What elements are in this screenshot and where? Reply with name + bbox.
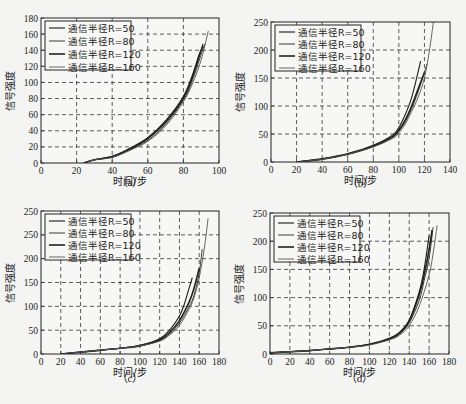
y-tick-label: 200 xyxy=(24,254,39,264)
x-tick-label: 20 xyxy=(56,357,66,367)
y-tick-label: 250 xyxy=(254,18,269,28)
x-tick-label: 180 xyxy=(212,357,227,367)
x-tick-label: 180 xyxy=(442,357,457,367)
x-tick-label: 60 xyxy=(343,165,353,175)
x-tick-label: 40 xyxy=(107,166,117,176)
legend-label: 通信半径R=160 xyxy=(298,63,371,74)
legend-label: 通信半径R=80 xyxy=(298,39,365,50)
legend-label: 通信半径R=120 xyxy=(297,242,370,253)
x-tick-label: 80 xyxy=(179,166,189,176)
y-tick-label: 100 xyxy=(253,293,268,303)
y-axis-label: 信号强度 xyxy=(4,263,16,303)
y-tick-label: 160 xyxy=(24,30,39,40)
legend: 通信半径R=50通信半径R=80通信半径R=120通信半径R=160 xyxy=(274,216,370,265)
x-tick-label: 160 xyxy=(192,357,207,367)
legend-label: 通信半径R=160 xyxy=(68,62,141,73)
y-tick-label: 0 xyxy=(33,159,38,169)
legend-label: 通信半径R=80 xyxy=(68,228,135,239)
legend-label: 通信半径R=50 xyxy=(298,27,365,38)
y-tick-label: 100 xyxy=(24,78,39,88)
x-tick-label: 40 xyxy=(305,357,315,367)
legend-label: 通信半径R=120 xyxy=(298,51,371,62)
x-tick-label: 100 xyxy=(212,166,227,176)
y-tick-label: 120 xyxy=(24,62,39,72)
subfigure-caption: （c） xyxy=(117,372,144,384)
y-tick-label: 150 xyxy=(253,265,268,275)
y-axis-label: 信号强度 xyxy=(4,71,16,111)
y-tick-label: 0 xyxy=(263,158,268,168)
legend: 通信半径R=50通信半径R=80通信半径R=120通信半径R=160 xyxy=(45,214,141,263)
x-tick-label: 0 xyxy=(39,357,44,367)
chart-a: 020406080100020406080100120140160180通信半径… xyxy=(4,14,226,189)
legend-label: 通信半径R=120 xyxy=(68,240,141,251)
y-tick-label: 100 xyxy=(24,302,39,312)
x-tick-label: 160 xyxy=(422,357,437,367)
x-tick-label: 40 xyxy=(76,357,86,367)
y-tick-label: 140 xyxy=(24,46,39,56)
y-tick-label: 200 xyxy=(254,46,269,56)
y-tick-label: 60 xyxy=(29,110,39,120)
x-tick-label: 0 xyxy=(268,357,273,367)
x-tick-label: 20 xyxy=(72,166,82,176)
x-tick-label: 120 xyxy=(417,165,432,175)
y-tick-label: 150 xyxy=(24,278,39,288)
subfigure-caption: （a） xyxy=(117,176,144,188)
legend: 通信半径R=50通信半径R=80通信半径R=120通信半径R=160 xyxy=(275,25,371,74)
x-tick-label: 60 xyxy=(96,357,106,367)
y-tick-label: 80 xyxy=(29,94,39,104)
legend-label: 通信半径R=50 xyxy=(297,218,364,229)
x-tick-label: 140 xyxy=(443,165,458,175)
y-tick-label: 150 xyxy=(254,74,269,84)
y-tick-label: 250 xyxy=(253,209,268,219)
legend-label: 通信半径R=50 xyxy=(68,216,135,227)
y-axis-label: 信号强度 xyxy=(234,72,246,112)
y-tick-label: 250 xyxy=(24,230,39,240)
y-axis-label: 信号强度 xyxy=(233,264,245,304)
legend-label: 通信半径R=160 xyxy=(297,254,370,265)
y-tick-label: 180 xyxy=(24,14,39,24)
y-tick-label: 50 xyxy=(259,130,269,140)
chart-c: 0204060801001201401601800501001502002502… xyxy=(4,207,226,385)
figure-canvas: 020406080100020406080100120140160180通信半径… xyxy=(0,0,466,404)
x-tick-label: 80 xyxy=(345,357,355,367)
legend-label: 通信半径R=120 xyxy=(68,49,141,60)
y-tick-label: 40 xyxy=(29,126,39,136)
chart-d: 020406080100120140160180050100150200250通… xyxy=(233,209,456,385)
y-tick-label: 0 xyxy=(33,350,38,360)
x-tick-label: 120 xyxy=(153,357,168,367)
subfigure-caption: （b） xyxy=(347,177,375,189)
y-tick-label: 0 xyxy=(262,350,267,360)
x-tick-label: 100 xyxy=(392,165,407,175)
x-tick-label: 140 xyxy=(402,357,417,367)
y-tick-label: 20 xyxy=(29,142,39,152)
legend-label: 通信半径R=50 xyxy=(68,23,135,34)
x-tick-label: 120 xyxy=(382,357,397,367)
x-tick-label: 100 xyxy=(133,357,148,367)
legend-label: 通信半径R=80 xyxy=(68,36,135,47)
x-tick-label: 140 xyxy=(172,357,187,367)
x-tick-label: 80 xyxy=(115,357,125,367)
x-tick-label: 0 xyxy=(39,166,44,176)
x-tick-label: 100 xyxy=(362,357,377,367)
y-tick-label: 50 xyxy=(29,326,39,336)
chart-b: 020406080100120140050100150200250通信半径R=5… xyxy=(234,18,457,190)
y-tick-label: 250 xyxy=(24,207,39,217)
x-tick-label: 40 xyxy=(317,165,327,175)
x-tick-label: 0 xyxy=(269,165,274,175)
y-tick-label: 100 xyxy=(254,102,269,112)
x-tick-label: 20 xyxy=(292,165,302,175)
legend: 通信半径R=50通信半径R=80通信半径R=120通信半径R=160 xyxy=(45,21,141,73)
legend-label: 通信半径R=160 xyxy=(68,252,141,263)
subfigure-caption: （d） xyxy=(346,372,374,384)
legend-label: 通信半径R=80 xyxy=(297,230,364,241)
x-tick-label: 80 xyxy=(369,165,379,175)
y-tick-label: 50 xyxy=(258,321,268,331)
x-tick-label: 60 xyxy=(325,357,335,367)
y-tick-label: 200 xyxy=(253,237,268,247)
x-tick-label: 20 xyxy=(285,357,295,367)
x-tick-label: 60 xyxy=(143,166,153,176)
